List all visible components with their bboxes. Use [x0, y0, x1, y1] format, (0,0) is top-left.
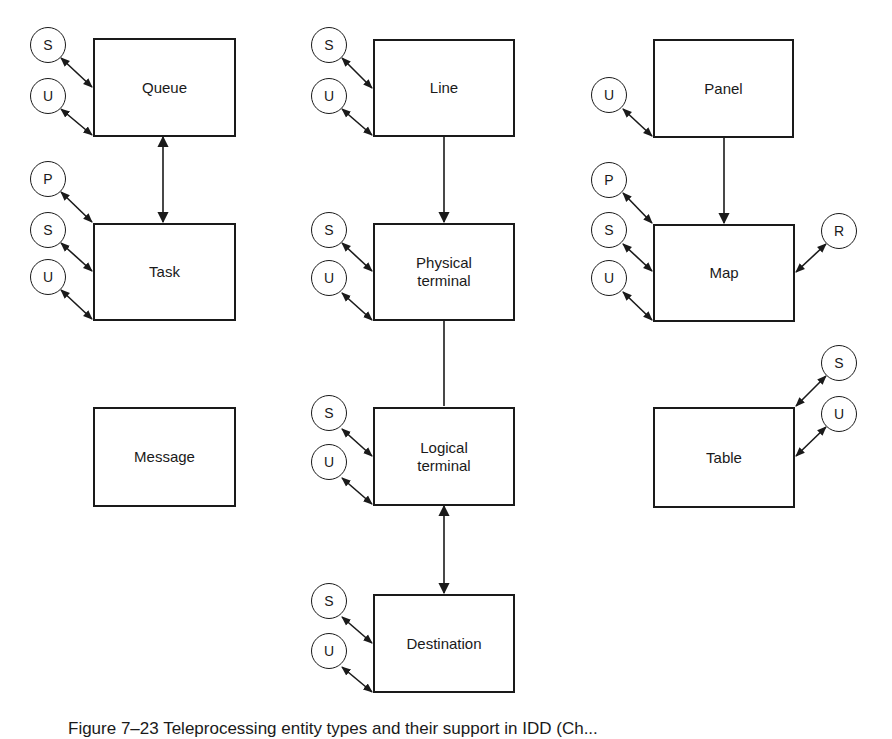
entity-label: Message: [134, 448, 195, 466]
entity-label: Physical terminal: [416, 254, 472, 290]
marker-s: S: [30, 27, 66, 63]
entity-label: Line: [430, 79, 458, 97]
marker-s: S: [311, 212, 347, 248]
entity-label: Table: [706, 449, 742, 467]
entity-physical-terminal: Physical terminal: [373, 223, 515, 321]
entity-map: Map: [653, 224, 795, 322]
entity-label: Task: [149, 263, 180, 281]
marker-s: S: [591, 212, 627, 248]
entity-label: Queue: [142, 79, 187, 97]
marker-s: S: [311, 27, 347, 63]
entity-label: Logical terminal: [417, 439, 470, 475]
entity-label: Panel: [704, 80, 742, 98]
figure-caption: Figure 7–23 Teleprocessing entity types …: [68, 719, 598, 739]
marker-u: U: [30, 78, 66, 114]
marker-s: S: [311, 583, 347, 619]
entity-message: Message: [93, 407, 236, 507]
marker-u: U: [311, 260, 347, 296]
marker-u: U: [591, 77, 627, 113]
entity-label: Map: [709, 264, 738, 282]
entity-line: Line: [373, 39, 515, 137]
entity-destination: Destination: [373, 594, 515, 693]
entity-task: Task: [93, 223, 236, 321]
entity-label: Destination: [406, 635, 481, 653]
marker-p: P: [591, 162, 627, 198]
marker-r: R: [821, 213, 857, 249]
marker-u: U: [311, 444, 347, 480]
entity-queue: Queue: [93, 38, 236, 137]
marker-s: S: [821, 345, 857, 381]
marker-u: U: [591, 260, 627, 296]
marker-s: S: [311, 395, 347, 431]
marker-p: P: [30, 161, 66, 197]
entity-table: Table: [653, 407, 795, 508]
marker-u: U: [311, 633, 347, 669]
marker-s: S: [30, 212, 66, 248]
entity-panel: Panel: [653, 39, 794, 138]
marker-u: U: [30, 259, 66, 295]
marker-u: U: [821, 396, 857, 432]
marker-u: U: [311, 78, 347, 114]
entity-logical-terminal: Logical terminal: [373, 407, 515, 506]
